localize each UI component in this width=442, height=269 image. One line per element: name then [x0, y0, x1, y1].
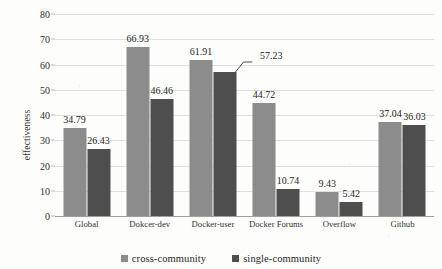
y-axis-title: effectiveness: [22, 109, 32, 160]
y-tick-label: 10: [40, 185, 50, 196]
bar-group: 37.0436.03: [371, 14, 434, 216]
bar-pair: 61.9157.23: [189, 14, 236, 216]
bar-value-label: 66.93: [127, 33, 150, 44]
bar-value-label: 9.43: [319, 178, 337, 189]
y-tick-label: 40: [40, 110, 50, 121]
y-tick-label: 60: [40, 59, 50, 70]
bar-group: 44.7210.74: [245, 14, 308, 216]
x-axis-labels: GlobalDokcer-devDocker-userDocker Forums…: [55, 219, 434, 229]
bar[interactable]: 26.43: [87, 149, 110, 216]
x-tick-label: Global: [55, 219, 118, 229]
bar[interactable]: 61.91: [189, 60, 212, 216]
bar[interactable]: 66.93: [126, 47, 149, 216]
legend-swatch-icon: [232, 255, 239, 262]
legend-label: cross-community: [132, 253, 206, 264]
bar-value-label: 37.04: [379, 108, 402, 119]
bar-group: 61.9157.23: [181, 14, 244, 216]
bar-group: 66.9346.46: [118, 14, 181, 216]
bar-group: 9.435.42: [308, 14, 371, 216]
bar-pair: 9.435.42: [316, 14, 363, 216]
legend-label: single-community: [243, 253, 321, 264]
chart-legend: cross-communitysingle-community: [0, 253, 442, 264]
bar-pair: 66.9346.46: [126, 14, 173, 216]
legend-item[interactable]: single-community: [232, 253, 321, 264]
bar-value-label: 36.03: [403, 111, 426, 122]
bar[interactable]: 37.04: [379, 122, 402, 216]
bar[interactable]: 10.74: [277, 189, 300, 216]
bar-value-label: 10.74: [277, 175, 300, 186]
bar[interactable]: 57.23: [213, 72, 236, 217]
bar-groups: 34.7926.4366.9346.4661.9157.2344.7210.74…: [55, 14, 434, 216]
bar[interactable]: 36.03: [403, 125, 426, 216]
bar[interactable]: 44.72: [253, 103, 276, 216]
bar-group: 34.7926.43: [55, 14, 118, 216]
legend-item[interactable]: cross-community: [121, 253, 206, 264]
y-tick-label: 80: [40, 9, 50, 20]
x-tick-label: Github: [371, 219, 434, 229]
x-tick-label: Docker-user: [181, 219, 244, 229]
bar-chart: effectiveness 01020304050607080 34.7926.…: [0, 0, 442, 269]
bar[interactable]: 5.42: [340, 202, 363, 216]
y-tick-label: 30: [40, 135, 50, 146]
x-tick-label: Dokcer-dev: [118, 219, 181, 229]
bar-value-label: 61.91: [190, 46, 213, 57]
bar-pair: 37.0436.03: [379, 14, 426, 216]
bar[interactable]: 34.79: [63, 128, 86, 216]
bar-value-label: 44.72: [253, 89, 276, 100]
y-tick-label: 0: [45, 211, 50, 222]
x-tick-label: Docker Forums: [245, 219, 308, 229]
bar[interactable]: 9.43: [316, 192, 339, 216]
bar[interactable]: 46.46: [150, 99, 173, 216]
bar-value-label: 34.79: [63, 114, 86, 125]
y-tick-label: 20: [40, 160, 50, 171]
bar-value-label: 26.43: [87, 135, 110, 146]
x-tick-label: Overflow: [308, 219, 371, 229]
bar-pair: 34.7926.43: [63, 14, 110, 216]
axis-baseline: [55, 216, 434, 217]
plot-area: 01020304050607080 34.7926.4366.9346.4661…: [55, 14, 434, 216]
bar-value-label: 46.46: [151, 85, 174, 96]
y-tick-label: 50: [40, 84, 50, 95]
bar-pair: 44.7210.74: [253, 14, 300, 216]
y-tick-label: 70: [40, 34, 50, 45]
legend-swatch-icon: [121, 255, 128, 262]
bar-value-label: 5.42: [343, 188, 361, 199]
